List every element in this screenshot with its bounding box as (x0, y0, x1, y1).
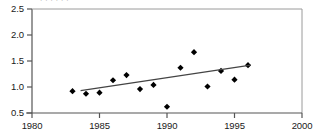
data-point-1985[interactable] (96, 90, 102, 96)
y-tick-label: 0.5 (0, 107, 24, 118)
axes-group (26, 9, 302, 118)
chart-plot-area (0, 0, 331, 135)
data-point-1988[interactable] (137, 86, 143, 92)
y-tick-label: 2.0 (0, 29, 24, 40)
data-point-1984[interactable] (83, 91, 89, 97)
x-tick-label: 1995 (215, 120, 255, 131)
y-tick-label: 2.5 (0, 3, 24, 14)
data-point-1991[interactable] (177, 65, 183, 71)
chart-container: . . . . . . 0.51.01.52.02.5 198019851990… (0, 0, 331, 135)
data-point-1995[interactable] (231, 77, 237, 83)
x-tick-label: 2000 (282, 120, 322, 131)
y-tick-label: 1.0 (0, 81, 24, 92)
data-point-1986[interactable] (110, 77, 116, 83)
data-point-1992[interactable] (191, 49, 197, 55)
data-point-1993[interactable] (204, 83, 210, 89)
series-group (69, 49, 251, 110)
data-point-1987[interactable] (123, 72, 129, 78)
x-tick-label: 1980 (12, 120, 52, 131)
x-tick-label: 1985 (80, 120, 120, 131)
trend-line (81, 65, 251, 90)
x-tick-label: 1990 (147, 120, 187, 131)
data-point-1994[interactable] (218, 68, 224, 74)
y-tick-label: 1.5 (0, 55, 24, 66)
data-point-1990[interactable] (164, 104, 170, 110)
data-point-1983[interactable] (69, 88, 75, 94)
data-point-1989[interactable] (150, 82, 156, 88)
